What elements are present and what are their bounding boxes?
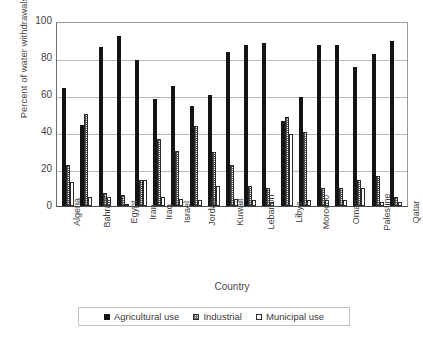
x-axis-tick: Iraq <box>156 210 172 274</box>
bar <box>343 200 347 206</box>
bar-group <box>368 23 386 206</box>
x-axis-tick-labels: AlgeriaBahrainEgyptIranIraqIsraelJordanK… <box>56 210 408 274</box>
bar <box>99 47 103 206</box>
bar <box>398 202 402 206</box>
legend-item: Municipal use <box>256 311 324 322</box>
bar-group <box>314 23 332 206</box>
x-axis-tick-label: Algeria <box>72 198 82 226</box>
bar-group <box>241 23 259 206</box>
y-axis-tick-labels: 100806040200 <box>0 0 52 210</box>
bar-group <box>387 23 405 206</box>
x-axis-tick: Oman <box>339 210 364 274</box>
bar <box>117 36 121 206</box>
x-axis-tick-label: Kuwait <box>234 198 244 225</box>
y-axis-tick: 80 <box>4 52 52 63</box>
bar <box>390 41 394 206</box>
bar-group <box>77 23 95 206</box>
bar <box>335 45 339 206</box>
chart-figure: Percent of water withdrawals 10080604020… <box>0 0 423 339</box>
x-axis-tick-label: Libya <box>293 201 303 223</box>
x-axis-tick: Egypt <box>117 210 140 274</box>
bar-group <box>223 23 241 206</box>
bar-group <box>186 23 204 206</box>
legend-label: Municipal use <box>266 311 324 322</box>
y-axis-tick: 40 <box>4 126 52 137</box>
bar <box>84 114 88 207</box>
legend-label: Agricultural use <box>114 311 179 322</box>
x-axis-tick: Israel <box>171 210 193 274</box>
bar-group <box>59 23 77 206</box>
x-axis-tick: Iran <box>140 210 156 274</box>
x-axis-tick-label: Lebanon <box>265 194 275 229</box>
bar <box>361 188 365 207</box>
x-axis-tick-label: Iraq <box>163 204 173 220</box>
bar-group <box>168 23 186 206</box>
bar-group <box>150 23 168 206</box>
x-axis-tick-label: Qatar <box>412 201 422 224</box>
bar <box>88 197 92 206</box>
bar-groups <box>57 23 407 206</box>
bar <box>307 200 311 206</box>
legend-swatch-icon <box>193 314 199 320</box>
x-axis-tick: Algeria <box>58 210 86 274</box>
x-axis-tick-label: Iran <box>148 204 158 220</box>
y-axis-tick: 100 <box>4 15 52 26</box>
y-axis-tick: 60 <box>4 89 52 100</box>
plot-area <box>56 22 408 207</box>
bar <box>262 43 266 206</box>
x-axis-tick: Palestine <box>363 210 400 274</box>
bar-group <box>296 23 314 206</box>
bar-group <box>277 23 295 206</box>
y-axis-tick: 20 <box>4 163 52 174</box>
legend-swatch-icon <box>104 314 110 320</box>
bar <box>143 180 147 206</box>
bar <box>194 126 198 206</box>
bar-group <box>205 23 223 206</box>
bar <box>317 45 321 206</box>
x-axis-tick: Qatar <box>400 210 423 274</box>
legend-item: Agricultural use <box>104 311 179 322</box>
bar <box>244 45 248 206</box>
bar <box>198 200 202 206</box>
x-axis-tick-label: Morocco <box>321 195 331 230</box>
legend-label: Industrial <box>203 311 242 322</box>
x-axis-tick: Bahrain <box>86 210 117 274</box>
x-axis-tick: Lebanon <box>248 210 283 274</box>
bar <box>303 132 307 206</box>
bar-group <box>350 23 368 206</box>
bar <box>289 134 293 206</box>
bar-group <box>132 23 150 206</box>
x-axis-tick: Kuwait <box>221 210 248 274</box>
x-axis-tick: Libya <box>283 210 305 274</box>
bar <box>252 200 256 206</box>
y-axis-tick: 0 <box>4 200 52 211</box>
bar-group <box>114 23 132 206</box>
x-axis-tick-label: Egypt <box>129 200 139 223</box>
x-axis-tick: Jordan <box>193 210 221 274</box>
bar-group <box>332 23 350 206</box>
x-axis-tick: Morocco <box>304 210 339 274</box>
chart-legend: Agricultural useIndustrialMunicipal use <box>78 307 350 326</box>
legend-item: Industrial <box>193 311 242 322</box>
x-axis-tick-label: Palestine <box>382 193 392 230</box>
bar-group <box>95 23 113 206</box>
bar-group <box>259 23 277 206</box>
x-axis-tick-label: Bahrain <box>102 196 112 227</box>
x-axis-tick-label: Jordan <box>207 198 217 226</box>
x-axis-title: Country <box>56 281 408 292</box>
legend-swatch-icon <box>256 314 262 320</box>
x-axis-tick-label: Oman <box>351 200 361 225</box>
x-axis-tick-label: Israel <box>182 201 192 223</box>
